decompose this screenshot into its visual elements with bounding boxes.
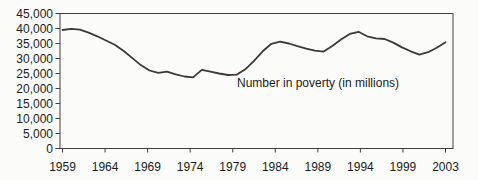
x-tick-label: 2003	[432, 160, 459, 174]
y-axis: 05,00010,00015,00020,00025,00030,00035,0…	[16, 7, 60, 156]
y-tick-label: 5,000	[23, 127, 53, 141]
y-tick-label: 35,000	[16, 37, 53, 51]
y-tick-label: 20,000	[16, 82, 53, 96]
y-tick-label: 25,000	[16, 67, 53, 81]
y-tick-label: 45,000	[16, 7, 53, 21]
x-tick-label: 1974	[177, 160, 204, 174]
y-tick-label: 30,000	[16, 52, 53, 66]
y-tick-label: 10,000	[16, 112, 53, 126]
x-axis: 1959196419691974197919841989199419992003	[49, 149, 459, 174]
x-tick-label: 1964	[92, 160, 119, 174]
poverty-line-chart: 05,00010,00015,00020,00025,00030,00035,0…	[0, 0, 478, 180]
x-tick-label: 1984	[262, 160, 289, 174]
x-tick-label: 1969	[134, 160, 161, 174]
x-tick-label: 1999	[390, 160, 417, 174]
x-tick-label: 1979	[219, 160, 246, 174]
x-tick-label: 1994	[347, 160, 374, 174]
x-tick-label: 1989	[304, 160, 331, 174]
x-tick-label: 1959	[49, 160, 76, 174]
y-tick-label: 0	[46, 142, 53, 156]
y-tick-label: 40,000	[16, 22, 53, 36]
series-annotation-label: Number in poverty (in millions)	[237, 76, 399, 90]
y-tick-label: 15,000	[16, 97, 53, 111]
series-line	[63, 29, 446, 78]
poverty-chart-figure: 05,00010,00015,00020,00025,00030,00035,0…	[0, 0, 478, 180]
